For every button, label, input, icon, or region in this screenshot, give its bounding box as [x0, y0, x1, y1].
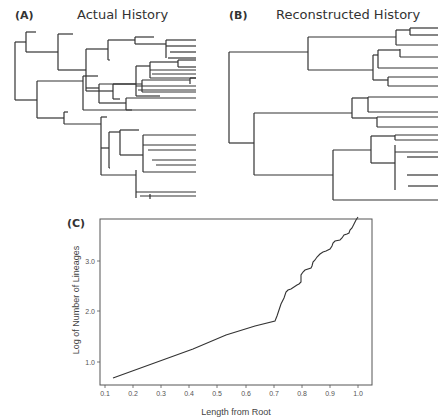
svg-text:3.0: 3.0 [85, 258, 95, 265]
svg-text:0.7: 0.7 [269, 390, 279, 397]
svg-text:1.0: 1.0 [353, 390, 363, 397]
svg-text:0.2: 0.2 [128, 390, 138, 397]
svg-text:0.1: 0.1 [100, 390, 110, 397]
svg-text:0.6: 0.6 [241, 390, 251, 397]
lineage-through-time-chart: 3.0 2.0 1.0 0.1 0.2 0.3 0.4 0.5 0.6 0.7 … [0, 0, 438, 419]
ltt-curve [113, 217, 358, 378]
svg-text:0.5: 0.5 [212, 390, 222, 397]
svg-text:0.9: 0.9 [325, 390, 335, 397]
y-axis-label: Log of Number of Lineages [71, 245, 81, 354]
svg-text:2.0: 2.0 [85, 308, 95, 315]
x-axis-label: Length from Root [201, 407, 271, 417]
svg-text:0.4: 0.4 [184, 390, 194, 397]
plot-frame [100, 219, 372, 385]
svg-text:0.8: 0.8 [297, 390, 307, 397]
svg-text:0.3: 0.3 [156, 390, 166, 397]
svg-text:1.0: 1.0 [85, 359, 95, 366]
